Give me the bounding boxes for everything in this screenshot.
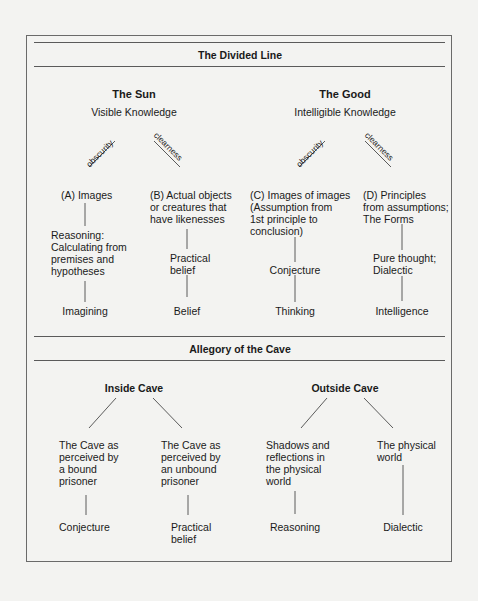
column-c-middle: Conjecture	[270, 264, 321, 276]
title-rule-bottom	[34, 66, 445, 67]
column-a-middle-3: premises and	[51, 253, 114, 265]
cave-col-3-head-1: Shadows and	[266, 439, 330, 451]
cave-col-1-head-1: The Cave as	[59, 439, 119, 451]
cave-col-4-head-1: The physical	[377, 439, 436, 451]
column-d-middle-1: Pure thought;	[373, 252, 436, 264]
column-a-middle-2: Calculating from	[51, 241, 127, 253]
cave-col-2-head-1: The Cave as	[161, 439, 221, 451]
column-b-head-2: or creatures that	[150, 201, 226, 213]
column-b-head-3: have likenesses	[150, 213, 225, 225]
cave-col-4-bottom: Dialectic	[383, 521, 423, 533]
intelligible-knowledge-label: Intelligible Knowledge	[294, 106, 396, 118]
column-d-bottom: Intelligence	[375, 305, 428, 317]
column-b-head-1: (B) Actual objects	[150, 189, 232, 201]
cave-col-3-head-2: reflections in	[266, 451, 325, 463]
inside-cave-heading: Inside Cave	[105, 382, 163, 394]
column-c-head-1: (C) Images of images	[250, 189, 350, 201]
cave-col-4-head-2: world	[377, 451, 402, 463]
cave-col-3-head-4: world	[266, 475, 291, 487]
column-a-bottom: Imagining	[62, 305, 108, 317]
good-heading: The Good	[319, 88, 370, 100]
column-a-middle-1: Reasoning:	[51, 229, 104, 241]
cave-col-2-head-3: an unbound	[161, 463, 216, 475]
column-b-middle-2: belief	[170, 264, 195, 276]
cave-col-3-bottom: Reasoning	[270, 521, 320, 533]
column-a-middle-4: hypotheses	[51, 265, 105, 277]
column-c-head-2: (Assumption from	[250, 201, 332, 213]
outside-cave-heading: Outside Cave	[311, 382, 378, 394]
cave-rule-bottom	[34, 360, 445, 361]
column-c-bottom: Thinking	[275, 305, 315, 317]
column-d-head-3: The Forms	[363, 213, 414, 225]
cave-col-1-head-3: a bound	[59, 463, 97, 475]
cave-col-2-bottom-2: belief	[171, 533, 196, 545]
column-c-head-3: 1st principle to	[250, 213, 318, 225]
cave-rule-top	[34, 336, 445, 337]
cave-col-1-head-4: prisoner	[59, 475, 97, 487]
sun-heading: The Sun	[112, 88, 155, 100]
column-a-head: (A) Images	[61, 189, 112, 201]
title-rule-top	[34, 42, 445, 43]
column-c-head-4: conclusion)	[250, 225, 303, 237]
cave-col-1-head-2: perceived by	[59, 451, 119, 463]
visible-knowledge-label: Visible Knowledge	[91, 106, 177, 118]
column-b-bottom: Belief	[174, 305, 200, 317]
cave-col-3-head-3: the physical	[266, 463, 321, 475]
cave-col-2-bottom-1: Practical	[171, 521, 211, 533]
column-d-head-1: (D) Principles	[363, 189, 426, 201]
divided-line-title: The Divided Line	[198, 49, 282, 61]
column-b-middle-1: Practical	[170, 252, 210, 264]
column-d-head-2: from assumptions;	[363, 201, 449, 213]
cave-col-2-head-2: perceived by	[161, 451, 221, 463]
cave-title: Allegory of the Cave	[189, 343, 291, 355]
column-d-middle-2: Dialectic	[373, 264, 413, 276]
cave-col-1-bottom: Conjecture	[59, 521, 110, 533]
cave-col-2-head-4: prisoner	[161, 475, 199, 487]
